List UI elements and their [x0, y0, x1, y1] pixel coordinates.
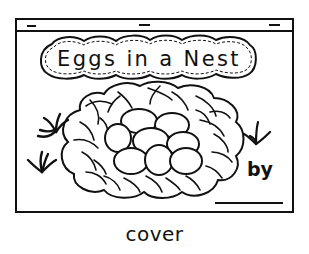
- egg-icon: [145, 145, 173, 175]
- grass-icon: [28, 152, 56, 172]
- book-cover-illustration: Eggs in a Nest: [0, 0, 309, 254]
- top-bar-ticks: [27, 25, 280, 26]
- author-label: by: [247, 158, 274, 180]
- cover-caption: cover: [0, 222, 309, 246]
- grass-icon: [244, 122, 270, 144]
- egg-icon: [170, 148, 202, 174]
- egg-icon: [114, 148, 148, 174]
- nest-icon: [62, 82, 244, 198]
- title-cloud: Eggs in a Nest: [41, 36, 256, 79]
- cover-title: Eggs in a Nest: [57, 47, 239, 71]
